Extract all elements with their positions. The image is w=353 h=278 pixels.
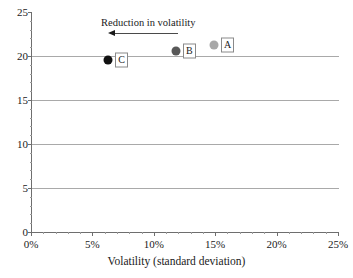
x-tick-minor	[264, 232, 265, 234]
y-tick-label-0: 0	[23, 227, 29, 238]
chart-container: 0510152025 0%5%10%15%20%25% ABC Reductio…	[0, 0, 353, 278]
x-tick-label-10%: 10%	[144, 239, 164, 250]
x-tick-label-20%: 20%	[267, 239, 287, 250]
x-tick-minor	[178, 232, 179, 234]
x-tick-label-15%: 15%	[205, 239, 225, 250]
x-tick-mark-20%	[277, 232, 278, 236]
x-tick-minor	[240, 232, 241, 234]
x-axis-line: 0%5%10%15%20%25%	[31, 232, 338, 233]
annotation-arrow-head	[108, 30, 115, 36]
x-tick-mark-10%	[154, 232, 155, 236]
x-tick-minor	[301, 232, 302, 234]
data-points-layer: ABC	[31, 12, 338, 232]
data-point-C[interactable]	[104, 55, 113, 64]
y-tick-label-20: 20	[17, 51, 28, 62]
x-tick-mark-0%	[31, 232, 32, 236]
x-tick-mark-15%	[215, 232, 216, 236]
data-point-label-B: B	[183, 43, 196, 58]
clipped-header-text	[0, 0, 353, 2]
x-tick-minor	[129, 232, 130, 234]
data-point-label-C: C	[115, 52, 128, 67]
x-tick-mark-25%	[338, 232, 339, 236]
x-tick-minor	[166, 232, 167, 234]
x-tick-mark-5%	[92, 232, 93, 236]
x-tick-minor	[68, 232, 69, 234]
data-point-A[interactable]	[209, 41, 218, 50]
annotation-arrow-line	[114, 33, 178, 34]
x-tick-minor	[105, 232, 106, 234]
data-point-B[interactable]	[171, 46, 180, 55]
x-tick-minor	[117, 232, 118, 234]
x-axis-title: Volatility (standard deviation)	[0, 255, 353, 268]
data-point-label-A: A	[221, 38, 234, 53]
x-tick-label-0%: 0%	[24, 239, 39, 250]
x-tick-minor	[203, 232, 204, 234]
x-tick-minor	[142, 232, 143, 234]
x-tick-minor	[252, 232, 253, 234]
x-tick-minor	[191, 232, 192, 234]
x-tick-minor	[227, 232, 228, 234]
x-tick-minor	[313, 232, 314, 234]
x-tick-label-5%: 5%	[85, 239, 100, 250]
x-tick-minor	[43, 232, 44, 234]
x-tick-minor	[326, 232, 327, 234]
x-tick-minor	[56, 232, 57, 234]
x-tick-label-25%: 25%	[328, 239, 348, 250]
y-tick-label-10: 10	[17, 139, 28, 150]
y-tick-label-5: 5	[23, 183, 29, 194]
x-tick-minor	[80, 232, 81, 234]
x-tick-minor	[289, 232, 290, 234]
annotation-reduction-in-volatility-label: Reduction in volatility	[101, 17, 196, 29]
y-tick-label-15: 15	[17, 95, 28, 106]
y-tick-label-25: 25	[17, 7, 28, 18]
